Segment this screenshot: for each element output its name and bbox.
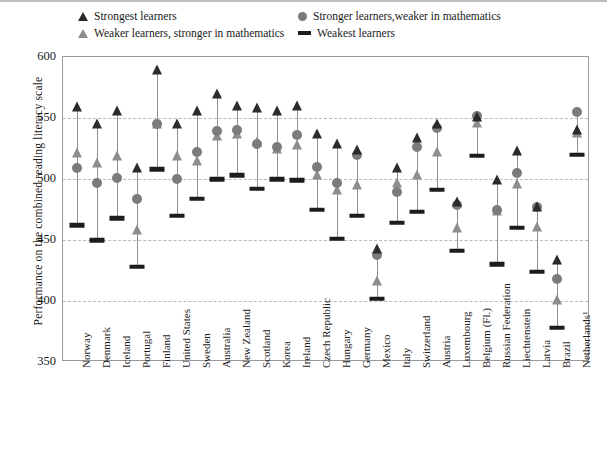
legend-item-weaker-stronger-math: Weaker learners, stronger in mathematics bbox=[78, 27, 284, 39]
y-tick-500: 500 bbox=[26, 171, 56, 186]
marker-weaker-stronger-math bbox=[432, 147, 442, 157]
marker-weakest-learners bbox=[570, 152, 585, 157]
marker-stronger-weaker-math bbox=[412, 142, 422, 152]
marker-weakest-learners bbox=[530, 269, 545, 274]
x-tick-czech-republic: Czech Republic bbox=[320, 298, 332, 368]
x-tick-sweden: Sweden bbox=[200, 333, 212, 368]
marker-weakest-learners bbox=[190, 196, 205, 201]
y-tick-600: 600 bbox=[26, 49, 56, 64]
circle-gray-icon bbox=[298, 12, 307, 21]
marker-strongest-learners bbox=[332, 138, 342, 148]
marker-strongest-learners bbox=[372, 243, 382, 253]
marker-weaker-stronger-math bbox=[532, 221, 542, 231]
marker-weakest-learners bbox=[370, 296, 385, 301]
marker-stronger-weaker-math bbox=[132, 194, 142, 204]
marker-stronger-weaker-math bbox=[112, 173, 122, 183]
marker-weakest-learners bbox=[230, 173, 245, 178]
marker-weakest-learners bbox=[550, 326, 565, 331]
marker-strongest-learners bbox=[492, 175, 502, 185]
range-stem bbox=[517, 151, 518, 228]
marker-strongest-learners bbox=[472, 111, 482, 121]
marker-weakest-learners bbox=[510, 226, 525, 231]
marker-strongest-learners bbox=[412, 132, 422, 142]
chart-root: Strongest learners Weaker learners, stro… bbox=[0, 0, 607, 470]
marker-weakest-learners bbox=[210, 177, 225, 182]
marker-weaker-stronger-math bbox=[292, 139, 302, 149]
legend-label-weakest-learners: Weakest learners bbox=[317, 27, 395, 39]
marker-weaker-stronger-math bbox=[112, 150, 122, 160]
marker-strongest-learners bbox=[552, 254, 562, 264]
marker-weaker-stronger-math bbox=[512, 178, 522, 188]
marker-stronger-weaker-math bbox=[252, 139, 262, 149]
x-tick-united-states: United States bbox=[180, 309, 192, 368]
x-tick-brazil: Brazil bbox=[560, 341, 572, 368]
marker-strongest-learners bbox=[72, 102, 82, 112]
marker-weakest-learners bbox=[310, 207, 325, 212]
marker-stronger-weaker-math bbox=[572, 107, 582, 117]
marker-weakest-learners bbox=[490, 262, 505, 267]
range-stem bbox=[537, 207, 538, 272]
marker-weaker-stronger-math bbox=[452, 222, 462, 232]
legend-item-stronger-weaker-math: Stronger learners,weaker in mathematics bbox=[298, 10, 501, 22]
marker-weaker-stronger-math bbox=[552, 294, 562, 304]
marker-weaker-stronger-math bbox=[72, 148, 82, 158]
legend-label-strongest-learners: Strongest learners bbox=[94, 10, 177, 22]
marker-stronger-weaker-math bbox=[292, 130, 302, 140]
marker-stronger-weaker-math bbox=[172, 174, 182, 184]
triangle-dark-icon bbox=[78, 12, 88, 21]
marker-strongest-learners bbox=[252, 103, 262, 113]
marker-stronger-weaker-math bbox=[72, 163, 82, 173]
marker-weakest-learners bbox=[150, 167, 165, 172]
marker-weaker-stronger-math bbox=[372, 276, 382, 286]
legend-label-stronger-weaker-math: Stronger learners,weaker in mathematics bbox=[313, 10, 501, 22]
marker-weaker-stronger-math bbox=[172, 150, 182, 160]
marker-stronger-weaker-math bbox=[92, 178, 102, 188]
marker-strongest-learners bbox=[212, 88, 222, 98]
marker-weaker-stronger-math bbox=[132, 225, 142, 235]
marker-strongest-learners bbox=[92, 119, 102, 129]
marker-stronger-weaker-math bbox=[332, 178, 342, 188]
dash-dark-icon bbox=[298, 31, 311, 35]
marker-weakest-learners bbox=[430, 188, 445, 193]
marker-stronger-weaker-math bbox=[232, 125, 242, 135]
marker-strongest-learners bbox=[352, 144, 362, 154]
marker-weakest-learners bbox=[170, 213, 185, 218]
range-stem bbox=[237, 106, 238, 176]
marker-strongest-learners bbox=[112, 105, 122, 115]
range-stem bbox=[177, 124, 178, 216]
marker-weakest-learners bbox=[130, 265, 145, 270]
x-tick-switzerland: Switzerland bbox=[420, 315, 432, 368]
legend-label-weaker-stronger-math: Weaker learners, stronger in mathematics bbox=[94, 27, 284, 39]
x-tick-norway: Norway bbox=[80, 333, 92, 368]
marker-weakest-learners bbox=[70, 223, 85, 228]
x-tick-scotland: Scotland bbox=[260, 330, 272, 369]
marker-strongest-learners bbox=[132, 163, 142, 173]
marker-weakest-learners bbox=[470, 154, 485, 159]
x-tick-ireland: Ireland bbox=[300, 337, 312, 368]
marker-stronger-weaker-math bbox=[552, 274, 562, 284]
marker-stronger-weaker-math bbox=[192, 147, 202, 157]
marker-stronger-weaker-math bbox=[392, 187, 402, 197]
legend-item-weakest-learners: Weakest learners bbox=[298, 27, 395, 39]
x-tick-italy: Italy bbox=[400, 348, 412, 368]
marker-strongest-learners bbox=[432, 119, 442, 129]
x-tick-korea: Korea bbox=[280, 341, 292, 368]
legend-item-strongest-learners: Strongest learners bbox=[78, 10, 177, 22]
marker-strongest-learners bbox=[512, 145, 522, 155]
marker-stronger-weaker-math bbox=[212, 126, 222, 136]
marker-weakest-learners bbox=[330, 237, 345, 242]
range-stem bbox=[137, 168, 138, 267]
marker-weakest-learners bbox=[350, 213, 365, 218]
marker-weaker-stronger-math bbox=[412, 170, 422, 180]
marker-strongest-learners bbox=[192, 105, 202, 115]
marker-weakest-learners bbox=[110, 216, 125, 221]
x-tick-germany: Germany bbox=[360, 327, 372, 368]
marker-strongest-learners bbox=[272, 105, 282, 115]
x-tick-hungary: Hungary bbox=[340, 330, 352, 369]
marker-weakest-learners bbox=[90, 238, 105, 243]
x-tick-latvia: Latvia bbox=[540, 340, 552, 368]
triangle-gray-icon bbox=[78, 29, 88, 38]
y-tick-450: 450 bbox=[26, 232, 56, 247]
marker-strongest-learners bbox=[292, 100, 302, 110]
range-stem bbox=[437, 124, 438, 190]
